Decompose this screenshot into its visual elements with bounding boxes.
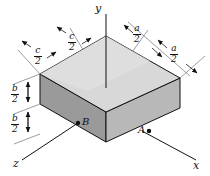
dimension-c-half-upper: c 2 — [68, 32, 76, 52]
dimension-b-half-lower: b 2 — [11, 114, 19, 134]
dimension-c-half-lower: c 2 — [34, 46, 42, 66]
dimension-a-half-upper: a 2 — [133, 24, 141, 44]
dimension-a-half-upper-denominator: 2 — [133, 35, 141, 44]
z-axis-line — [22, 123, 78, 160]
x-axis-line — [142, 131, 196, 160]
dimension-c-half-upper-denominator: 2 — [68, 43, 76, 52]
dimension-b-half-lower-denominator: 2 — [11, 125, 19, 134]
block-diagram — [0, 0, 210, 176]
dimension-c-half-upper-numerator: c — [68, 32, 76, 41]
dimension-b-half-upper-denominator: 2 — [11, 95, 19, 104]
point-b-label: B — [82, 117, 89, 127]
dimension-c-half-lower-denominator: 2 — [34, 57, 42, 66]
dimension-a-half-lower-numerator: a — [170, 44, 178, 53]
dimension-a-half-lower-denominator: 2 — [170, 55, 178, 64]
dimension-a-half-upper-numerator: a — [133, 24, 141, 33]
dimension-b-half-upper: b 2 — [11, 84, 19, 104]
dimension-a-half-lower: a 2 — [170, 44, 178, 64]
point-b-marker — [76, 121, 80, 125]
z-axis-label: z — [13, 158, 19, 169]
dimension-c-half-lower-numerator: c — [34, 46, 42, 55]
x-axis-label: x — [193, 160, 199, 171]
point-a-marker — [147, 129, 151, 133]
dimension-b-half-upper-numerator: b — [11, 84, 19, 93]
dimension-b-half-lower-numerator: b — [11, 114, 19, 123]
point-a-label: A — [138, 125, 145, 135]
y-axis-label: y — [95, 3, 101, 14]
